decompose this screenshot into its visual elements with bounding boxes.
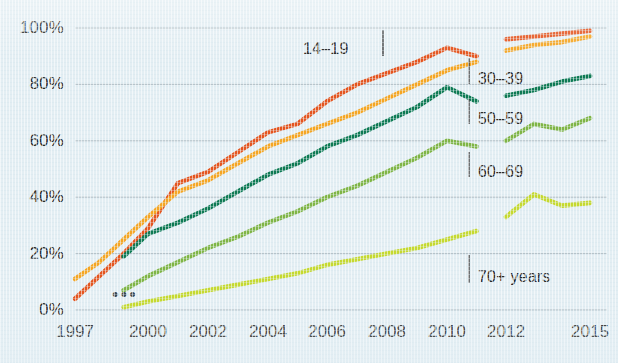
- y-axis-tick-label-0: 0%: [0, 300, 64, 320]
- x-axis-tick-label-2000: 2000: [118, 322, 178, 342]
- x-axis-tick-label-2012: 2012: [476, 322, 536, 342]
- y-axis-tick-label-40: 40%: [0, 187, 64, 207]
- series-label-14-19: 14–19: [303, 40, 349, 58]
- y-axis-tick-label-60: 60%: [0, 131, 64, 151]
- series-label-30-39: 30–39: [478, 70, 524, 88]
- y-axis-tick-label-20: 20%: [0, 244, 64, 264]
- x-axis-tick-label-2002: 2002: [178, 322, 238, 342]
- x-axis-tick-label-2010: 2010: [417, 322, 477, 342]
- y-axis-tick-label-80: 80%: [0, 74, 64, 94]
- x-axis-tick-label-1997: 1997: [45, 322, 105, 342]
- chart-labels-layer: 100%80%60%40%20%0%1997200020022004200620…: [0, 0, 618, 363]
- series-label-70-years: 70+ years: [478, 268, 551, 286]
- y-axis-tick-label-100: 100%: [0, 18, 64, 38]
- series-label-50-59: 50–59: [478, 110, 524, 128]
- series-label-60-69: 60–69: [478, 163, 524, 181]
- x-axis-tick-label-2015: 2015: [560, 322, 618, 342]
- x-axis-tick-label-2006: 2006: [297, 322, 357, 342]
- x-axis-tick-label-2004: 2004: [238, 322, 298, 342]
- early-years-ellipsis-marker: •••: [112, 285, 138, 304]
- x-axis-tick-label-2008: 2008: [357, 322, 417, 342]
